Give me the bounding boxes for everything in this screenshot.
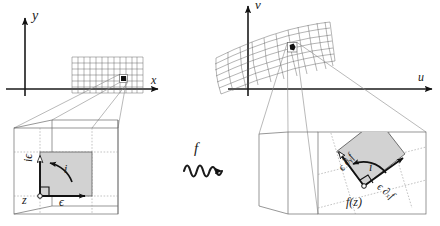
target-magnifier-cone <box>259 42 426 214</box>
axis-label-v: v <box>255 0 261 11</box>
diagram-svg <box>0 0 440 226</box>
source-rotation-label: i <box>64 163 67 175</box>
axis-label-y: y <box>32 9 38 23</box>
source-rectangular-grid <box>72 57 143 93</box>
axis-label-x: x <box>151 74 156 86</box>
target-origin-dot <box>362 184 367 189</box>
source-origin-dot <box>38 194 43 199</box>
map-function-label: f <box>194 141 198 156</box>
target-rotation-label: i <box>369 161 372 173</box>
map-squiggly-arrow <box>184 166 222 177</box>
target-axes <box>228 6 432 96</box>
source-i-epsilon-label: iϵ <box>22 154 34 162</box>
target-highlight-cell <box>287 42 297 52</box>
figure-canvas: y x v u f z ϵ iϵ i f(z) ϵ ∂ₓf ϵ ∂ᵧf i <box>0 0 440 226</box>
axis-label-u: u <box>418 71 424 83</box>
target-origin-label: f(z) <box>346 196 362 208</box>
source-epsilon-label: ϵ <box>59 196 64 208</box>
source-origin-label: z <box>22 194 27 206</box>
target-zoom-frame <box>259 132 426 214</box>
